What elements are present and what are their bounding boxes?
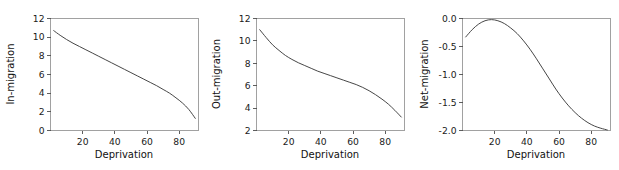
- chart-in-migration: 20406080024681012 Deprivation In-migrati…: [0, 0, 206, 170]
- yaxis-title-in-migration: In-migration: [5, 43, 16, 104]
- chart-net-migration: 20406080-2.0-1.5-1.0-0.50.0 Deprivation …: [412, 0, 618, 170]
- chart-out-migration: 2040608024681012 Deprivation Out-migrati…: [206, 0, 412, 170]
- y-tick-label: 6: [245, 80, 251, 91]
- y-tick-label: -0.5: [439, 41, 457, 52]
- plot-frame-out-migration: [257, 19, 405, 131]
- x-tick-label: 80: [379, 136, 391, 147]
- y-tick-label: 10: [239, 35, 251, 46]
- ticks-in-migration: [47, 19, 179, 135]
- x-tick-label: 60: [553, 136, 565, 147]
- x-tick-label: 40: [109, 136, 121, 147]
- x-tick-label: 80: [585, 136, 597, 147]
- panel-out-migration: 2040608024681012 Deprivation Out-migrati…: [206, 0, 412, 170]
- curve-in-migration: [54, 31, 196, 119]
- y-tick-label: 8: [39, 50, 45, 61]
- y-tick-label: 4: [39, 87, 45, 98]
- y-tick-label: 2: [39, 106, 45, 117]
- ticks-out-migration: [253, 19, 385, 135]
- x-tick-label: 60: [347, 136, 359, 147]
- migration-figure: 20406080024681012 Deprivation In-migrati…: [0, 0, 619, 170]
- xaxis-title-in-migration: Deprivation: [95, 149, 153, 160]
- ticklabels-in-migration: 20406080024681012: [33, 13, 185, 147]
- ticklabels-out-migration: 2040608024681012: [239, 13, 391, 147]
- x-tick-label: 20: [283, 136, 295, 147]
- ticks-net-migration: [459, 19, 591, 135]
- y-tick-label: 0.0: [442, 13, 457, 24]
- panel-net-migration: 20406080-2.0-1.5-1.0-0.50.0 Deprivation …: [412, 0, 618, 170]
- plot-frame-in-migration: [51, 19, 199, 131]
- x-tick-label: 40: [315, 136, 327, 147]
- y-tick-label: 12: [33, 13, 45, 24]
- y-tick-label: 12: [239, 13, 251, 24]
- y-tick-label: 8: [245, 58, 251, 69]
- x-tick-label: 40: [521, 136, 533, 147]
- panel-in-migration: 20406080024681012 Deprivation In-migrati…: [0, 0, 206, 170]
- y-tick-label: 10: [33, 31, 45, 42]
- y-tick-label: 4: [245, 102, 251, 113]
- yaxis-title-out-migration: Out-migration: [211, 39, 222, 109]
- xaxis-title-net-migration: Deprivation: [507, 149, 565, 160]
- y-tick-label: -1.5: [439, 97, 457, 108]
- curve-net-migration: [466, 20, 608, 130]
- xaxis-title-out-migration: Deprivation: [301, 149, 359, 160]
- plot-frame-net-migration: [463, 19, 611, 131]
- y-tick-label: 2: [245, 125, 251, 136]
- yaxis-title-net-migration: Net-migration: [419, 39, 430, 108]
- y-tick-label: -1.0: [439, 69, 457, 80]
- y-tick-label: -2.0: [439, 125, 457, 136]
- x-tick-label: 80: [173, 136, 185, 147]
- y-tick-label: 6: [39, 69, 45, 80]
- x-tick-label: 20: [489, 136, 501, 147]
- curve-out-migration: [260, 30, 402, 117]
- y-tick-label: 0: [39, 125, 45, 136]
- x-tick-label: 20: [77, 136, 89, 147]
- x-tick-label: 60: [141, 136, 153, 147]
